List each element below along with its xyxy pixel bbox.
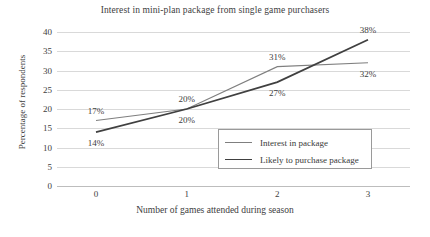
y-tick-label: 40 [43,27,52,37]
y-tick-label: 25 [43,85,52,95]
y-tick-label: 0 [48,181,53,191]
x-axis-title: Number of games attended during season [0,205,430,215]
data-label: 32% [360,69,377,79]
data-label: 38% [360,25,377,35]
y-tick-label: 5 [48,162,53,172]
legend-item[interactable]: Interest in package [225,134,365,151]
series-line [96,63,368,121]
y-tick-label: 15 [43,123,52,133]
chart-container: Interest in mini-plan package from singl… [0,0,430,237]
legend-item[interactable]: Likely to purchase package [225,151,365,168]
data-label: 20% [178,115,195,125]
legend-swatch-line-icon [225,142,252,143]
data-label: 20% [178,94,195,104]
chart-legend[interactable]: Interest in packageLikely to purchase pa… [218,129,372,169]
y-tick-label: 30 [43,66,52,76]
y-tick-label: 35 [43,46,52,56]
data-label: 14% [88,138,105,148]
series-line [96,40,368,132]
x-tick-label: 2 [275,189,280,199]
gridline [57,186,410,187]
y-tick-label: 10 [43,143,52,153]
chart-title: Interest in mini-plan package from singl… [0,5,430,15]
legend-swatch-line-icon [225,159,252,160]
data-label: 17% [88,106,105,116]
legend-label: Likely to purchase package [260,155,359,165]
y-axis-tick-labels: 0510152025303540 [0,32,52,186]
x-tick-label: 0 [94,189,99,199]
data-label: 31% [269,52,286,62]
y-tick-label: 20 [43,104,52,114]
x-tick-label: 3 [366,189,371,199]
legend-label: Interest in package [260,138,328,148]
x-axis-tick-labels: 0123 [57,189,410,203]
data-label: 27% [269,88,286,98]
x-tick-label: 1 [184,189,189,199]
